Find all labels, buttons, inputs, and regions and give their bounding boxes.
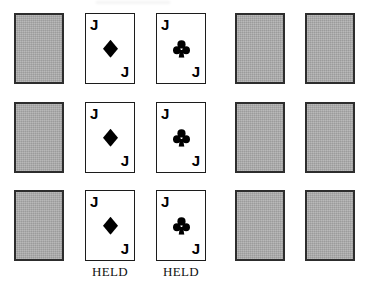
card-row: J J J J: [0, 102, 374, 173]
card-face-up-jack-diamonds[interactable]: J J: [85, 190, 135, 261]
club-pip-icon: [157, 128, 205, 146]
card-rank-bottom-right: J: [121, 64, 129, 79]
card-rank-bottom-right: J: [192, 153, 200, 168]
card-rank-top-left: J: [90, 106, 98, 121]
club-pip-icon: [157, 216, 205, 234]
card-face-down[interactable]: [305, 190, 355, 261]
card-rank-bottom-right: J: [192, 241, 200, 256]
card-face-down[interactable]: [14, 102, 64, 173]
card-face-up-jack-clubs[interactable]: J J: [156, 13, 206, 84]
card-face-down[interactable]: [14, 190, 64, 261]
card-row: J J J J: [0, 190, 374, 261]
card-face-down[interactable]: [305, 13, 355, 84]
card-row: J J J J: [0, 13, 374, 84]
held-label-column-3: HELD: [156, 264, 206, 280]
card-face-up-jack-clubs[interactable]: J J: [156, 190, 206, 261]
card-face-up-jack-diamonds[interactable]: J J: [85, 102, 135, 173]
diamond-pip-icon: [86, 216, 134, 234]
card-face-down[interactable]: [14, 13, 64, 84]
card-rank-bottom-right: J: [121, 153, 129, 168]
diamond-pip-icon: [86, 128, 134, 146]
card-face-up-jack-diamonds[interactable]: J J: [85, 13, 135, 84]
club-pip-icon: [157, 39, 205, 57]
held-label-column-2: HELD: [85, 264, 135, 280]
diamond-pip-icon: [86, 39, 134, 57]
card-face-down[interactable]: [305, 102, 355, 173]
scan-artifact: [96, 1, 170, 4]
card-face-up-jack-clubs[interactable]: J J: [156, 102, 206, 173]
card-rank-top-left: J: [161, 17, 169, 32]
card-face-down[interactable]: [235, 13, 285, 84]
card-rank-bottom-right: J: [121, 241, 129, 256]
card-rank-top-left: J: [90, 17, 98, 32]
card-rank-top-left: J: [161, 194, 169, 209]
card-rank-bottom-right: J: [192, 64, 200, 79]
card-rank-top-left: J: [90, 194, 98, 209]
card-face-down[interactable]: [235, 190, 285, 261]
card-rank-top-left: J: [161, 106, 169, 121]
card-face-down[interactable]: [235, 102, 285, 173]
card-board: J J J J: [0, 0, 374, 294]
